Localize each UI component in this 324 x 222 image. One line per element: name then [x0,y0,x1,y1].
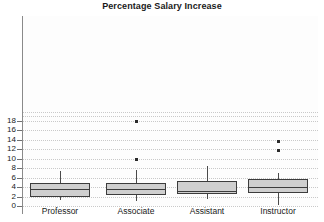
whisker-lower [278,193,279,205]
whisker-lower [136,195,137,200]
outlier-point [277,140,280,143]
boxplot-chart: Percentage Salary Increase 0246810121416… [0,0,324,222]
x-axis-label-instructor: Instructor [238,206,318,216]
x-axis-label-assistant: Assistant [167,206,247,216]
y-axis-tick [17,197,22,198]
whisker-lower [60,197,61,201]
y-axis-label: 0 [0,202,16,210]
median-line [248,187,308,188]
outlier-point [277,149,280,152]
whisker-lower [207,194,208,199]
box-plot-instructor [0,0,324,190]
x-axis-label-associate: Associate [96,206,176,216]
median-line [177,191,237,192]
x-axis-label-professor: Professor [20,206,100,216]
grid-line [22,197,318,198]
y-axis-label: 2 [0,193,16,201]
